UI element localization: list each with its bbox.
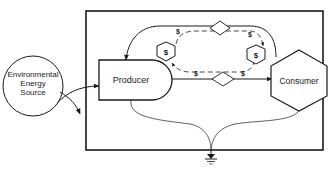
consumer: Consumer xyxy=(270,48,327,111)
producer-heat-loss xyxy=(131,100,211,150)
environmental-energy-source: Environmental Energy Source xyxy=(3,56,63,116)
source-label-line-1: Environmental xyxy=(7,70,58,79)
money-store-left: $ xyxy=(157,42,175,61)
consumer-label: Consumer xyxy=(279,76,318,86)
source-outflow-arrow xyxy=(60,92,80,114)
producer: Producer xyxy=(99,60,172,100)
heat-sink-ground-icon xyxy=(205,150,217,164)
consumer-heat-loss xyxy=(211,111,299,150)
money-label-top-left: $ xyxy=(176,28,180,36)
money-store-right-label: $ xyxy=(254,51,259,60)
money-label-bottom-right: $ xyxy=(241,70,245,78)
money-store-left-label: $ xyxy=(164,48,169,57)
producer-label: Producer xyxy=(113,75,150,85)
bottom-interaction-diamond xyxy=(212,72,234,86)
energy-diagram: Environmental Energy Source Producer Con… xyxy=(0,0,331,169)
money-label-bottom-left: $ xyxy=(194,70,198,78)
source-label-line-2: Energy xyxy=(20,79,45,88)
top-interaction-diamond xyxy=(210,21,230,35)
source-label-line-3: Source xyxy=(20,88,46,97)
money-store-right: $ xyxy=(247,45,265,64)
money-label-top-right: $ xyxy=(248,31,252,39)
